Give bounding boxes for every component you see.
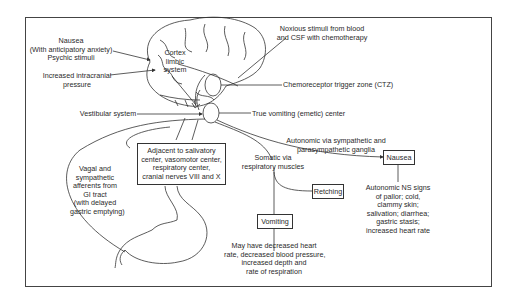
label-nausea-psychic: Nausea (With anticipatory anxiety) Psych… [28,37,114,63]
label-autonomic-path: Autonomic via sympathetic and parasympat… [282,137,390,154]
emetic-center-oval [203,103,219,123]
stomach-icon [115,186,207,268]
label-noxious-stimuli: Noxious stimuli from blood and CSF with … [274,25,370,42]
label-vagal-afferents: Vagal and sympathetic afferents from GI … [70,165,120,217]
label-somatic: Somatic via respiratory muscles [240,154,306,171]
label-emetic-center: True vomiting (emetic) center [252,110,345,119]
box-adjacent-centers: Adjacent to salivatory center, vasomotor… [137,143,226,185]
label-cortex-limbic: Cortex limbic system [158,49,192,75]
label-intracranial-pressure: Increased intracranial pressure [42,72,112,89]
label-vestibular: Vestibular system [78,110,138,119]
label-autonomic-signs: Autonomic NS signs of pallor; cold, clam… [364,184,432,236]
label-ctz: Chemoreceptor trigger zone (CTZ) [283,81,393,90]
box-retching: Retching [312,184,344,199]
ctz-oval [205,74,221,96]
box-nausea: Nausea [383,150,415,165]
box-vomiting: Vomiting [257,214,293,229]
label-vomiting-effects: May have decreased heart rate, decreased… [224,242,324,276]
